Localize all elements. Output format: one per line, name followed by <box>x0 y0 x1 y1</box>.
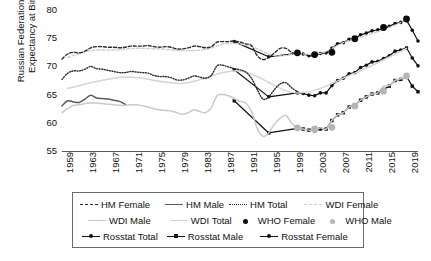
legend-item-label: HM Total <box>250 200 287 210</box>
data-point-marker <box>410 56 414 60</box>
legend-item-label: Rosstat Female <box>281 232 348 242</box>
y-tick-label: 75 <box>46 33 57 43</box>
solid-light2-line-icon <box>169 216 189 226</box>
who-data-point-marker <box>294 124 301 131</box>
line-square-marker-icon <box>166 232 186 242</box>
who-data-point-marker <box>294 49 301 56</box>
who-data-point-marker <box>380 24 387 31</box>
legend-row-2: WDI MaleWDI TotalWHO FemaleWHO Male <box>77 213 359 229</box>
solid-light-line-icon <box>87 216 107 226</box>
x-tick-label: 2003 <box>318 152 328 173</box>
legend-row-3: Rosstat TotalRosstat MaleRosstat Female <box>77 229 359 245</box>
y-tick-label: 80 <box>46 5 57 15</box>
legend-item-rosstat-female[interactable]: Rosstat Female <box>259 232 348 242</box>
who-data-point-marker <box>403 16 410 23</box>
data-point-marker <box>370 60 374 64</box>
legend-item-who-male[interactable]: WHO Male <box>323 216 391 226</box>
line-dot-marker-icon <box>259 232 279 242</box>
data-point-marker <box>416 90 419 93</box>
y-axis-title-line-1: Russian Federation Life <box>15 0 27 82</box>
x-tick-label: 1983 <box>203 152 213 173</box>
x-axis-ticks: 1959196319671971197519791983198719911995… <box>62 152 418 192</box>
data-point-marker <box>411 84 414 87</box>
x-tick-label: 1963 <box>88 152 98 173</box>
series-wdi-total <box>68 48 407 93</box>
x-tick-label: 1987 <box>226 152 236 173</box>
x-tick-label: 1967 <box>111 152 121 173</box>
y-axis-title: Russian Federation Life Expectancy at Bi… <box>12 0 40 97</box>
who-data-point-marker <box>351 102 358 109</box>
y-tick-label: 65 <box>46 90 57 100</box>
data-point-marker <box>416 39 420 43</box>
data-point-marker <box>365 63 369 67</box>
x-tick-label: 2019 <box>410 152 420 173</box>
data-point-marker <box>324 91 328 95</box>
solid-gray-line-icon <box>164 200 184 210</box>
legend-item-rosstat-total[interactable]: Rosstat Total <box>81 232 158 242</box>
legend-item-hm-male[interactable]: HM Male <box>164 200 224 210</box>
legend-item-label: WDI Total <box>191 216 232 226</box>
legend-item-label: Rosstat Total <box>103 232 158 242</box>
legend-item-rosstat-male[interactable]: Rosstat Male <box>166 232 243 242</box>
who-data-point-marker <box>311 51 318 58</box>
legend-item-label: HM Male <box>186 200 224 210</box>
who-data-point-marker <box>403 73 410 80</box>
x-tick-label: 1971 <box>134 152 144 173</box>
chart-legend: HM FemaleHM MaleHM TotalWDI Female WDI M… <box>72 192 364 248</box>
x-tick-label: 1975 <box>157 152 167 173</box>
who-data-point-marker <box>328 49 335 56</box>
x-tick-label: 2015 <box>387 152 397 173</box>
legend-item-label: WHO Male <box>345 216 391 226</box>
data-point-marker <box>307 93 311 97</box>
legend-row-1: HM FemaleHM MaleHM TotalWDI Female <box>77 197 359 213</box>
legend-item-label: WHO Female <box>258 216 316 226</box>
x-tick-label: 1991 <box>249 152 259 173</box>
legend-item-hm-total[interactable]: HM Total <box>228 200 287 210</box>
legend-item-label: WDI Female <box>325 200 378 210</box>
chart-root: Russian Federation Life Expectancy at Bi… <box>0 0 431 261</box>
gray-dot-marker-icon <box>323 216 343 226</box>
legend-item-wdi-male[interactable]: WDI Male <box>87 216 151 226</box>
legend-item-wdi-female[interactable]: WDI Female <box>303 200 378 210</box>
data-point-marker <box>410 29 414 33</box>
legend-item-wdi-total[interactable]: WDI Total <box>169 216 232 226</box>
y-tick-label: 55 <box>46 146 57 156</box>
legend-item-label: WDI Male <box>109 216 151 226</box>
legend-item-label: HM Female <box>101 200 150 210</box>
data-point-marker <box>359 66 363 70</box>
data-point-marker <box>393 49 397 53</box>
y-tick-label: 70 <box>46 62 57 72</box>
data-point-marker <box>370 29 374 33</box>
data-point-marker <box>313 94 317 98</box>
series-rosstat-female <box>232 18 419 58</box>
x-tick-label: 1979 <box>180 152 190 173</box>
x-tick-label: 2011 <box>364 152 374 172</box>
black-dot-marker-icon <box>236 216 256 226</box>
y-tick-label: 60 <box>46 118 57 128</box>
who-data-point-marker <box>311 126 318 133</box>
legend-item-label: Rosstat Male <box>188 232 243 242</box>
x-tick-label: 2007 <box>341 152 351 173</box>
x-tick-label: 1995 <box>272 152 282 173</box>
plot-area: 807570656055 <box>62 10 418 151</box>
legend-item-hm-female[interactable]: HM Female <box>79 200 150 210</box>
y-axis-title-line-2: Expectancy at Birth <box>26 0 38 73</box>
line-dot-marker-icon <box>81 232 101 242</box>
legend-item-who-female[interactable]: WHO Female <box>236 216 316 226</box>
who-data-point-marker <box>328 124 335 131</box>
data-point-marker <box>416 64 420 68</box>
who-data-point-marker <box>380 88 387 95</box>
series-layer <box>62 10 418 151</box>
data-point-marker <box>319 91 323 95</box>
dotted-dark-line-icon <box>228 200 248 210</box>
dashed-light-line-icon <box>303 200 323 210</box>
x-tick-label: 1959 <box>65 152 75 173</box>
dashed-dark-line-icon <box>79 200 99 210</box>
x-tick-label: 1999 <box>295 152 305 173</box>
who-data-point-marker <box>351 35 358 42</box>
